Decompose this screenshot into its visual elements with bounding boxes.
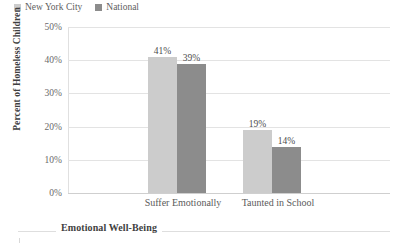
legend-entry-national: National — [95, 2, 139, 12]
gridline-50 — [68, 27, 390, 28]
bar-taunted-in-school-national — [272, 147, 301, 194]
bar-chart-figure: New York City National Percent of Homele… — [0, 0, 394, 246]
legend-entry-new-york-city: New York City — [14, 2, 82, 12]
bar-value-label-suffer-emotionally-national: 39% — [173, 53, 210, 63]
bar-suffer-emotionally-new-york-city — [148, 57, 177, 193]
legend-label-new-york-city: New York City — [25, 2, 82, 12]
x-axis-title: Emotional Well-Being — [56, 222, 162, 233]
legend-swatch-national — [95, 4, 102, 11]
gridline-10 — [68, 160, 390, 161]
legend-label-national: National — [106, 2, 139, 12]
y-axis-title: Percent of Homeless Children — [12, 0, 22, 139]
y-axis-tick-labels: 50% 40% 30% 20% 10% 0% — [22, 27, 62, 193]
corner-tick-mark — [19, 238, 20, 243]
chart-legend: New York City National — [14, 1, 139, 13]
gridline-20 — [68, 127, 390, 128]
gridline-30 — [68, 93, 390, 94]
plot-area: 41% 39% 19% 14% — [68, 27, 390, 193]
y-tick-0: 0% — [22, 188, 62, 198]
y-tick-10: 10% — [22, 155, 62, 165]
gridline-0-baseline — [68, 193, 390, 194]
bar-value-label-taunted-in-school-national: 14% — [268, 136, 305, 146]
category-label-taunted-in-school: Taunted in School — [218, 197, 338, 209]
bar-suffer-emotionally-national — [177, 64, 206, 194]
y-tick-50: 50% — [22, 22, 62, 32]
gridline-40 — [68, 60, 390, 61]
y-tick-30: 30% — [22, 88, 62, 98]
y-tick-40: 40% — [22, 55, 62, 65]
bar-value-label-taunted-in-school-new-york-city: 19% — [239, 119, 276, 129]
y-tick-20: 20% — [22, 122, 62, 132]
